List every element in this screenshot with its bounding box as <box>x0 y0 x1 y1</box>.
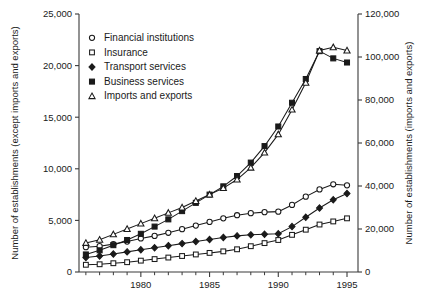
series-marker <box>276 209 281 214</box>
y-ticklabel-left: 25,000 <box>43 8 72 19</box>
series-line <box>86 194 347 258</box>
series-marker <box>345 216 350 221</box>
series-marker <box>331 56 336 61</box>
x-ticklabel: 1980 <box>130 279 151 290</box>
y-ticklabel-right: 120,000 <box>365 8 399 19</box>
legend-marker-open-square <box>90 50 95 55</box>
x-ticklabel: 1985 <box>199 279 220 290</box>
y-ticklabel-right: 0 <box>365 266 370 277</box>
series-marker <box>180 254 185 259</box>
series-marker <box>344 190 350 196</box>
series-marker <box>317 222 322 227</box>
y-axis-title-left: Number of establishments (except imports… <box>9 26 20 259</box>
series-marker <box>125 238 130 243</box>
series-marker <box>303 194 308 199</box>
x-ticklabel: 1990 <box>268 279 289 290</box>
legend-item: Transport services <box>89 61 186 72</box>
series-marker <box>152 233 157 238</box>
y-ticklabel-left: 15,000 <box>43 112 72 123</box>
legend-item: Insurance <box>90 47 149 58</box>
series-marker <box>234 213 239 218</box>
series-marker <box>289 202 294 207</box>
series-marker <box>262 210 267 215</box>
series-transport-services <box>83 190 350 260</box>
series-marker <box>152 257 157 262</box>
chart-legend: Financial institutionsInsuranceTransport… <box>89 32 194 101</box>
series-marker <box>330 197 336 203</box>
series-marker <box>331 219 336 224</box>
series-marker <box>152 245 158 251</box>
series-marker <box>152 224 157 229</box>
series-marker <box>138 231 143 236</box>
series-marker <box>165 242 171 248</box>
y-ticklabel-right: 20,000 <box>365 223 394 234</box>
y-ticklabel-right: 60,000 <box>365 137 394 148</box>
series-marker <box>125 260 130 265</box>
series-marker <box>234 233 240 239</box>
series-marker <box>166 230 171 235</box>
series-marker <box>248 211 253 216</box>
series-marker <box>303 227 308 232</box>
y-ticklabel-right: 40,000 <box>365 180 394 191</box>
y-ticklabel-left: 20,000 <box>43 60 72 71</box>
series-marker <box>166 255 171 260</box>
series-marker <box>179 227 184 232</box>
legend-label: Business services <box>104 76 184 87</box>
series-marker <box>193 252 198 257</box>
series-marker <box>248 244 253 249</box>
y-ticklabel-left: 10,000 <box>43 163 72 174</box>
legend-marker-open-triangle <box>89 93 95 99</box>
series-marker <box>262 144 267 149</box>
series-marker <box>248 232 254 238</box>
series-marker <box>290 100 295 105</box>
series-marker <box>331 182 336 187</box>
y-ticklabel-left: 0 <box>67 266 72 277</box>
series-imports-and-exports <box>83 44 350 245</box>
series-marker <box>276 124 281 129</box>
y-ticklabel-right: 100,000 <box>365 51 399 62</box>
legend-label: Insurance <box>104 47 148 58</box>
series-marker <box>275 231 281 237</box>
legend-label: Transport services <box>104 61 186 72</box>
series-marker <box>262 241 267 246</box>
series-marker <box>207 236 213 242</box>
series-marker <box>138 247 144 253</box>
series-marker <box>97 248 102 253</box>
series-marker <box>276 238 281 243</box>
series-marker <box>138 258 143 263</box>
chart-container: 05,00010,00015,00020,00025,000020,00040,… <box>0 0 424 297</box>
y-ticklabel-right: 80,000 <box>365 94 394 105</box>
legend-label: Financial institutions <box>104 32 194 43</box>
series-marker <box>275 131 281 137</box>
series-marker <box>344 183 349 188</box>
series-marker <box>317 205 323 211</box>
y-ticklabel-left: 5,000 <box>48 215 72 226</box>
series-marker <box>111 243 116 248</box>
series-marker <box>110 251 116 257</box>
legend-item: Financial institutions <box>89 32 194 43</box>
series-marker <box>207 251 212 256</box>
legend-marker-filled-square <box>90 79 95 84</box>
legend-item: Imports and exports <box>89 90 192 101</box>
series-marker <box>83 262 88 267</box>
series-marker <box>303 214 309 220</box>
series-marker <box>235 247 240 252</box>
series-marker <box>83 252 88 257</box>
series-marker <box>345 60 350 65</box>
series-marker <box>124 249 130 255</box>
series-marker <box>207 219 212 224</box>
legend-label: Imports and exports <box>104 90 192 101</box>
series-marker <box>317 187 322 192</box>
x-ticklabel: 1995 <box>336 279 357 290</box>
series-marker <box>262 231 268 237</box>
series-marker <box>111 261 116 266</box>
line-chart: 05,00010,00015,00020,00025,000020,00040,… <box>0 0 424 297</box>
legend-marker-filled-diamond <box>89 64 95 70</box>
legend-item: Business services <box>90 76 185 87</box>
series-marker <box>221 216 226 221</box>
legend-marker-open-circle <box>89 35 94 40</box>
series-marker <box>193 223 198 228</box>
series-marker <box>220 234 226 240</box>
series-marker <box>289 223 295 229</box>
series-marker <box>193 238 199 244</box>
